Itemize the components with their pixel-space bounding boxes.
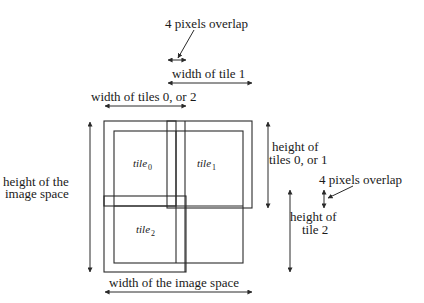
tile-2-label: tile2	[136, 223, 155, 238]
overlap-top-pointer	[178, 30, 194, 58]
tiling-diagram: tile0 tile1 tile2 4 pixels overlap width…	[0, 0, 424, 303]
tile-0-label: tile0	[133, 157, 152, 172]
width-tiles02-label: width of tiles 0, or 2	[91, 89, 196, 104]
height-tile2-label-line2: tile 2	[302, 222, 328, 237]
overlap-right-pointer	[328, 186, 353, 198]
overlap-top-label: 4 pixels overlap	[165, 16, 248, 31]
overlap-right-label: 4 pixels overlap	[319, 172, 402, 187]
width-tile1-label: width of tile 1	[172, 66, 245, 81]
image-space-rect	[114, 131, 243, 263]
height-tiles01-label-line2: tiles 0, or 1	[269, 152, 328, 167]
height-image-label-line2: image space	[5, 186, 69, 201]
width-image-label: width of the image space	[109, 275, 239, 290]
tile-1-label: tile1	[197, 157, 216, 172]
